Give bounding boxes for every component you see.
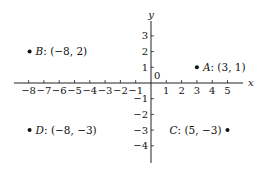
x-tick-label: 2 [178,85,184,96]
point-label: C: (5, −3) [170,124,222,136]
point-marker [195,65,199,69]
point-name: B [35,45,44,57]
point-marker [28,50,32,54]
point-a: A: (3, 1) [195,61,246,73]
origin-label: 0 [154,70,160,81]
point-b: B: (−8, 2) [28,45,88,57]
y-tick-label: −4 [133,140,148,151]
point-label: D: (−8, −3) [35,124,97,136]
x-tick-label: 4 [209,85,215,96]
point-coords: : (−8, −3) [44,124,97,136]
y-tick-label: −3 [133,125,148,136]
x-tick-label: −5 [67,85,82,96]
y-axis-label: y [147,9,154,20]
y-tick-label: 2 [142,46,148,57]
point-c: C: (5, −3) [170,124,230,136]
x-tick-label: 3 [194,85,200,96]
y-tick-label: −1 [133,93,148,104]
x-tick-label: −8 [21,85,36,96]
point-name: C [170,124,178,136]
x-tick-label: −2 [113,85,128,96]
point-label: B: (−8, 2) [35,45,88,57]
x-axis-label: x [248,77,254,88]
point-coords: : (3, 1) [210,61,245,73]
x-tick-label: −6 [52,85,67,96]
point-d: D: (−8, −3) [28,124,97,136]
point-coords: : (5, −3) [178,124,222,136]
x-tick-label: −7 [37,85,52,96]
x-tick-label: −4 [82,85,97,96]
point-marker [28,128,32,132]
x-tick-label: 5 [224,85,230,96]
point-label: A: (3, 1) [202,61,246,73]
y-tick-label: 3 [142,30,148,41]
x-tick-label: −3 [98,85,113,96]
y-tick-label: −2 [133,109,148,120]
x-ticks: −8−7−6−5−4−3−2−112345 [21,80,230,96]
y-tick-label: 1 [142,62,148,73]
coordinate-plane: xy0 −8−7−6−5−4−3−2−112345 321−1−2−3−4 A:… [0,0,263,173]
point-coords: : (−8, 2) [43,45,87,57]
point-marker [226,128,230,132]
x-tick-label: 1 [163,85,169,96]
